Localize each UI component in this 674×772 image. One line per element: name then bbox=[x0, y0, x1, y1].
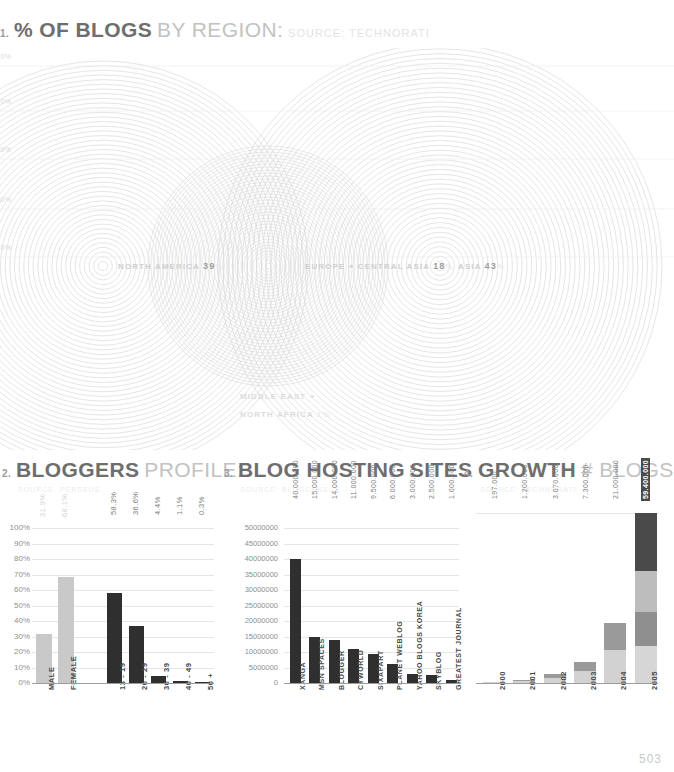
panel2-value-age-3: 1.1% bbox=[175, 496, 184, 515]
panel2-xlabel-gender-0: MALE bbox=[47, 666, 56, 690]
region-name-middle-east: NORTH AFRICA bbox=[240, 410, 314, 419]
panel3-gridline bbox=[284, 606, 459, 607]
region-value-europe: 18 bbox=[433, 261, 445, 271]
panel2-gridline bbox=[32, 559, 214, 560]
region-name-north-america: NORTH AMERICA bbox=[118, 262, 200, 271]
page-number: 503 bbox=[639, 752, 662, 766]
panel4-xlabel-2004: 2004 bbox=[619, 671, 628, 690]
panel1-heading: 1. % OF BLOGS BY REGION: SOURCE: TECHNOR… bbox=[0, 18, 430, 42]
panel4-value-2002: 3.070.000 bbox=[552, 464, 559, 499]
panel2-gridline bbox=[32, 575, 214, 576]
panel3-value-1: 15.000.000 bbox=[311, 460, 318, 499]
panel2-ytick-80: 80% bbox=[0, 554, 30, 563]
region-name-asia: ASIA bbox=[458, 262, 481, 271]
panel3-xlabel-6: YAHOO BLOGS KOREA bbox=[416, 601, 423, 690]
panel3-ytick-9: 5000000 bbox=[222, 663, 278, 672]
panel3-value-6: 3.000.000 bbox=[409, 464, 416, 499]
panel4-gridline-top bbox=[476, 513, 658, 514]
panel3-xlabel-0: XANGA bbox=[299, 662, 306, 690]
panel3-ytick-1: 45000000 bbox=[222, 539, 278, 548]
panel3-xlabel-4: SIXAPART bbox=[377, 650, 384, 690]
region-suffix-asia: % bbox=[497, 262, 505, 271]
panel3-value-7: 2.500.000 bbox=[428, 464, 435, 499]
panel3-value-4: 9.500.000 bbox=[370, 464, 377, 499]
panel2-x-axis bbox=[32, 683, 214, 684]
blog-hosting-sites-plot: 5000000045000000400000003500000030000000… bbox=[222, 458, 472, 768]
panel2-value-gender-0: 31.9% bbox=[38, 494, 47, 517]
panel2-ytick-40: 40% bbox=[0, 616, 30, 625]
region-name-europe: EUROPE + CENTRAL ASIA bbox=[305, 262, 430, 271]
panel3-ytick-2: 40000000 bbox=[222, 554, 278, 563]
panel3-value-3: 11.000.000 bbox=[350, 460, 357, 499]
panel3-xlabel-8: GREATEST JOURNAL bbox=[455, 607, 462, 690]
panel4-value-2001: 1.200.000 bbox=[521, 464, 528, 499]
panel3-value-5: 6.000.000 bbox=[389, 464, 396, 499]
panel2-value-age-4: 0.3% bbox=[197, 496, 206, 515]
panel2-gridline bbox=[32, 528, 214, 529]
panel2-ytick-30: 30% bbox=[0, 632, 30, 641]
panel4-value-2005: 59.400.000 bbox=[641, 458, 650, 501]
panel3-xlabel-2: BLOGGER bbox=[338, 650, 345, 690]
panel2-value-age-1: 36.6% bbox=[131, 492, 140, 515]
region-value-asia: 43 bbox=[485, 261, 497, 271]
region-concentric-circles-diagram bbox=[0, 48, 674, 450]
panel3-ytick-5: 25000000 bbox=[222, 601, 278, 610]
panel3-value-2: 14.000.000 bbox=[331, 460, 338, 499]
panel2-gridline bbox=[32, 544, 214, 545]
panel3-ytick-10: 0 bbox=[222, 678, 278, 687]
panel4-value-2004: 21.000.000 bbox=[612, 460, 619, 499]
panel3-gridline bbox=[284, 528, 459, 529]
panel2-value-age-2: 4.4% bbox=[153, 496, 162, 515]
panel4-bar-2005 bbox=[635, 513, 657, 683]
region-label-middle-east-line2: NORTH AFRICA 1% bbox=[240, 410, 331, 419]
panel4-value-2003: 7.300.000 bbox=[582, 464, 589, 499]
panel-growth-blogs: 4. GROWTH # BLOGS SOURCE: TECHNORATI 197… bbox=[462, 458, 674, 768]
panel4-xlabel-2001: 2001 bbox=[528, 671, 537, 690]
panel1-source: SOURCE: TECHNORATI bbox=[288, 27, 430, 39]
panel3-gridline bbox=[284, 590, 459, 591]
panel2-xlabel-age-2: 30 - 39 bbox=[162, 662, 171, 690]
panel2-ytick-100: 100% bbox=[0, 523, 30, 532]
panel3-value-0: 40.000.000 bbox=[292, 460, 299, 499]
region-value-middle-east: 1% bbox=[317, 410, 331, 419]
panel2-value-gender-1: 68.1% bbox=[60, 494, 69, 517]
panel2-ytick-10: 10% bbox=[0, 663, 30, 672]
panel2-xlabel-age-0: 13 - 19 bbox=[118, 662, 127, 690]
panel3-xlabel-7: SKYBLOG bbox=[435, 651, 442, 690]
panel4-xlabel-2005: 2005 bbox=[650, 671, 659, 690]
panel3-gridline bbox=[284, 621, 459, 622]
region-value-north-america: 39 bbox=[203, 261, 215, 271]
panel-bloggers-profile: 2. BLOGGERS PROFILE: SOURCE: PERSEUS 100… bbox=[0, 458, 232, 768]
panel-blog-hosting-sites: 3. BLOG HOSTING SITES SOURCE: BLOGCENSUS… bbox=[222, 458, 472, 768]
region-label-middle-east-line1: MIDDLE EAST + bbox=[240, 392, 315, 401]
panel1-title-light: BY REGION: bbox=[157, 18, 283, 41]
panel3-ytick-3: 35000000 bbox=[222, 570, 278, 579]
bloggers-profile-plot: 100%90%80%70%60%50%40%30%20%10%0%31.9%MA… bbox=[0, 458, 232, 768]
panel2-ytick-50: 50% bbox=[0, 601, 30, 610]
panel3-ytick-4: 30000000 bbox=[222, 585, 278, 594]
panel3-ytick-7: 15000000 bbox=[222, 632, 278, 641]
panel2-ytick-70: 70% bbox=[0, 570, 30, 579]
panel3-x-axis bbox=[284, 683, 459, 684]
region-label-north-america: NORTH AMERICA 39% bbox=[118, 261, 223, 271]
panel4-x-axis bbox=[476, 683, 658, 684]
panel2-ytick-90: 90% bbox=[0, 539, 30, 548]
panel3-value-8: 1.000.000 bbox=[448, 464, 455, 499]
panel3-ytick-6: 20000000 bbox=[222, 616, 278, 625]
panel4-xlabel-2003: 2003 bbox=[589, 671, 598, 690]
panel2-ytick-20: 20% bbox=[0, 647, 30, 656]
region-suffix-europe: % bbox=[445, 262, 453, 271]
panel2-xlabel-age-4: 50 + bbox=[206, 673, 215, 690]
panel1-index: 1. bbox=[0, 28, 9, 39]
panel3-gridline bbox=[284, 559, 459, 560]
panel4-xlabel-2000: 2000 bbox=[498, 671, 507, 690]
panel2-ytick-0: 0% bbox=[0, 678, 30, 687]
panel2-xlabel-gender-1: FEMALE bbox=[69, 656, 78, 690]
panel4-xlabel-2002: 2002 bbox=[559, 671, 568, 690]
panel-blogs-by-region: 1. % OF BLOGS BY REGION: SOURCE: TECHNOR… bbox=[0, 18, 674, 450]
region-suffix-north-america: % bbox=[215, 262, 223, 271]
panel3-gridline bbox=[284, 544, 459, 545]
panel3-ytick-0: 50000000 bbox=[222, 523, 278, 532]
panel2-value-age-0: 58.3% bbox=[109, 492, 118, 515]
growth-blogs-plot: 197.00020001.200.00020013.070.00020027.3… bbox=[462, 458, 674, 768]
